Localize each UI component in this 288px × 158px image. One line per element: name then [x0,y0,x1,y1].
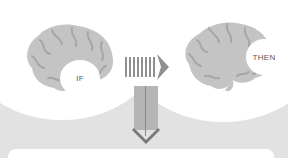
if-then-diagram: IF [0,0,288,158]
if-label: IF [60,60,100,96]
if-node: IF [20,20,118,98]
then-label: THEN [246,39,282,75]
down-arrow-icon [132,86,160,144]
result-box [8,149,274,158]
then-node: THEN [179,18,277,96]
striped-right-arrow-icon [125,54,173,80]
